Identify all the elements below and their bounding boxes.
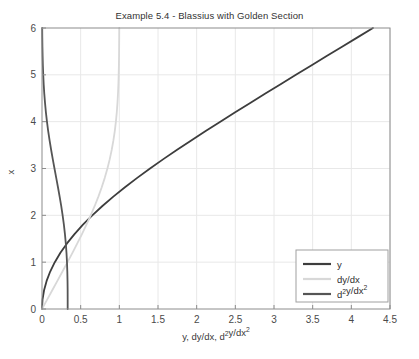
y-tick-label: 1	[30, 257, 36, 268]
x-tick-label: 0	[39, 314, 45, 325]
y-tick-label: 2	[30, 210, 36, 221]
legend-label-1: dy/dx	[337, 274, 360, 285]
x-tick-label: 4	[349, 314, 355, 325]
x-tick-label: 1.5	[151, 314, 165, 325]
x-tick-label: 2.5	[228, 314, 242, 325]
y-tick-label: 4	[30, 116, 36, 127]
x-tick-label: 4.5	[383, 314, 397, 325]
y-axis-title: x	[5, 169, 16, 174]
x-tick-label: 0.5	[74, 314, 88, 325]
x-tick-label: 2	[194, 314, 200, 325]
x-tick-label: 3	[271, 314, 277, 325]
x-tick-label: 1	[117, 314, 123, 325]
x-tick-label: 3.5	[306, 314, 320, 325]
legend-label-0: y	[337, 259, 342, 270]
figure-container: Example 5.4 - Blassius with Golden Secti…	[0, 0, 419, 359]
y-tick-label: 6	[30, 23, 36, 34]
plot-area: 00.511.522.533.544.5 0123456 y, dy/dx, d…	[0, 0, 419, 359]
y-tick-label: 3	[30, 163, 36, 174]
y-tick-label: 0	[30, 304, 36, 315]
legend[interactable]: ydy/dxd2y/dx2	[296, 250, 388, 302]
x-axis-title: y, dy/dx, d2y/dx2	[182, 326, 250, 342]
y-tick-label: 5	[30, 69, 36, 80]
